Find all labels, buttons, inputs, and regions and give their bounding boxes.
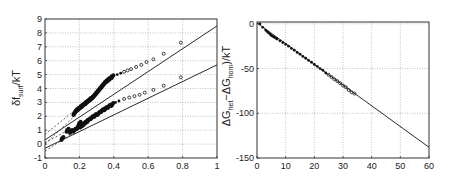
y-tick-label: 3 <box>37 97 42 107</box>
x-tick-label: 0 <box>254 161 259 171</box>
x-tick-label: 0.4 <box>108 161 121 171</box>
data-point <box>106 106 110 110</box>
data-point <box>145 61 148 64</box>
y-tick-label: -100 <box>236 108 254 118</box>
data-point <box>92 115 96 119</box>
figure: 00.20.40.60.81 -10123456789 δfsurf/kT 01… <box>0 0 450 179</box>
right-x-tick-labels: 0102030405060 <box>254 161 434 171</box>
data-point <box>75 127 79 131</box>
right-data-series <box>257 22 429 147</box>
y-tick-label: 1 <box>37 125 42 135</box>
data-point <box>123 97 126 100</box>
y-tick-label: 5 <box>37 70 42 80</box>
x-tick-label: 60 <box>424 161 434 171</box>
x-tick-label: 40 <box>367 161 377 171</box>
right-y-axis-label: ΔGhet−ΔGhom)/kT <box>220 45 234 126</box>
y-tick-label: 9 <box>37 14 42 24</box>
x-tick-label: 0.2 <box>73 161 86 171</box>
data-point <box>179 76 182 79</box>
x-tick-label: 20 <box>309 161 319 171</box>
fit-line <box>45 26 217 140</box>
data-point <box>140 63 143 66</box>
data-point <box>89 117 93 121</box>
data-point <box>133 95 136 98</box>
data-point <box>143 91 146 94</box>
right-y-tick-labels: 0-50-100-150 <box>236 19 254 163</box>
left-y-tick-labels: -10123456789 <box>34 14 42 163</box>
x-tick-label: 0.8 <box>176 161 189 171</box>
x-tick-label: 0 <box>42 161 47 171</box>
left-grid <box>45 19 217 158</box>
y-tick-label: 7 <box>37 42 42 52</box>
data-point <box>85 120 89 124</box>
left-y-axis-label: δfsurf/kT <box>10 70 24 106</box>
data-point <box>119 72 122 75</box>
y-tick-label: 8 <box>37 28 42 38</box>
data-point <box>152 58 155 61</box>
y-tick-label: -1 <box>34 153 42 163</box>
data-point <box>179 41 182 44</box>
data-point <box>162 84 165 87</box>
data-point <box>128 96 131 99</box>
data-point <box>152 88 155 91</box>
x-tick-label: 50 <box>395 161 405 171</box>
fit-line <box>45 65 217 148</box>
x-tick-label: 0.6 <box>142 161 155 171</box>
right-plot-panel: 0102030405060 0-50-100-150 ΔGhet−ΔGhom)/… <box>220 19 434 171</box>
y-tick-label: 2 <box>37 111 42 121</box>
left-plot-panel: 00.20.40.60.81 -10123456789 δfsurf/kT <box>10 14 220 171</box>
data-point <box>114 101 117 104</box>
x-tick-label: 1 <box>214 161 219 171</box>
data-point <box>102 108 106 112</box>
data-point <box>138 93 141 96</box>
data-point <box>96 113 100 117</box>
data-point <box>109 104 113 108</box>
y-tick-label: -50 <box>241 64 254 74</box>
y-tick-label: 0 <box>37 139 42 149</box>
x-tick-label: 30 <box>338 161 348 171</box>
data-point <box>65 130 69 134</box>
y-tick-label: 4 <box>37 84 42 94</box>
data-point <box>116 73 119 76</box>
data-point <box>123 70 126 73</box>
x-tick-label: 10 <box>281 161 291 171</box>
y-tick-label: 6 <box>37 56 42 66</box>
data-point <box>130 68 133 71</box>
y-tick-label: 0 <box>249 19 254 29</box>
left-x-tick-labels: 00.20.40.60.81 <box>42 161 219 171</box>
data-point <box>126 69 129 72</box>
data-point <box>135 65 138 68</box>
data-point <box>71 130 75 134</box>
data-point <box>112 75 115 78</box>
fit-line <box>257 23 429 147</box>
data-point <box>162 52 165 55</box>
data-point <box>118 100 121 103</box>
y-tick-label: -150 <box>236 153 254 163</box>
data-point <box>99 110 103 114</box>
